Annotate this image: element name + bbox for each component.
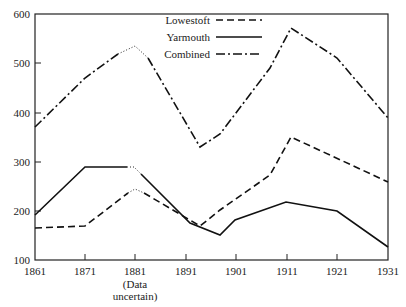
series-combined bbox=[35, 28, 388, 147]
y-tick-label: 500 bbox=[14, 57, 31, 69]
x-tick-label: 1891 bbox=[175, 265, 197, 277]
x-tick-label: 1871 bbox=[74, 265, 96, 277]
legend-label: Yarmouth bbox=[166, 31, 210, 43]
x-tick-label: 1901 bbox=[225, 265, 247, 277]
x-tick-label: 1931 bbox=[377, 265, 399, 277]
x-tick-label: 1861 bbox=[24, 265, 46, 277]
series-lowestoft bbox=[35, 137, 388, 228]
plot-frame bbox=[35, 14, 388, 260]
annotation-data-uncertain-line2: uncertain) bbox=[113, 290, 158, 303]
series-yarmouth bbox=[35, 167, 388, 247]
legend-item-combined: Combined bbox=[164, 48, 262, 60]
chart-canvas: 600 500 400 300 200 100 1861 1871 1881 1… bbox=[0, 0, 406, 307]
y-tick-label: 200 bbox=[14, 205, 31, 217]
legend-item-lowestoft: Lowestoft bbox=[165, 14, 262, 26]
x-tick-label: 1881 bbox=[124, 265, 146, 277]
y-tick-label: 400 bbox=[14, 107, 31, 119]
legend-label: Combined bbox=[164, 48, 210, 60]
legend-item-yarmouth: Yarmouth bbox=[166, 31, 262, 43]
y-tick-label: 600 bbox=[14, 8, 31, 20]
x-tick-label: 1911 bbox=[276, 265, 298, 277]
x-axis: 1861 1871 1881 1891 1901 1911 1921 1931 … bbox=[24, 254, 399, 303]
x-tick-label: 1921 bbox=[326, 265, 348, 277]
legend-label: Lowestoft bbox=[165, 14, 210, 26]
y-tick-label: 300 bbox=[14, 156, 31, 168]
legend: Lowestoft Yarmouth Combined bbox=[164, 14, 262, 60]
